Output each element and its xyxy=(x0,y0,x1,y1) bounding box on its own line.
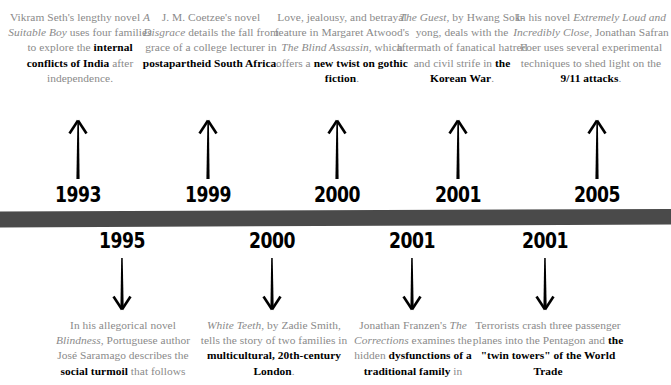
entry-text-top-2005: In his novel Extremely Loud and Incredib… xyxy=(513,10,669,86)
arrow-up-icon xyxy=(191,116,225,179)
year-label-top: 2000 xyxy=(304,183,370,207)
year-label-top: 2005 xyxy=(564,183,630,207)
entry-text-top-2000: Love, jealousy, and betrayal feature in … xyxy=(272,10,412,86)
year-label-bottom: 1995 xyxy=(89,229,155,253)
entry-text-bottom-2001-a: Jonathan Franzen's The Corrections exami… xyxy=(337,318,489,379)
entry-text-top-1999: J. M. Coetzee's novel Disgrace details t… xyxy=(140,10,282,71)
arrow-down-icon xyxy=(105,258,139,314)
year-label-bottom: 2001 xyxy=(512,229,578,253)
year-label-top: 1999 xyxy=(175,183,241,207)
arrow-down-icon xyxy=(255,258,289,314)
entry-text-top-1993: Vikram Seth's lengthy novel A Suitable B… xyxy=(6,10,154,86)
entry-text-top-2001: The Guest, by Hwang Sok-yong, deals with… xyxy=(396,10,528,86)
arrow-down-icon xyxy=(395,258,429,314)
year-label-top: 2001 xyxy=(425,183,491,207)
arrow-up-icon xyxy=(320,116,354,179)
year-label-bottom: 2000 xyxy=(239,229,305,253)
arrow-up-icon xyxy=(580,116,614,179)
timeline-canvas: Vikram Seth's lengthy novel A Suitable B… xyxy=(0,0,671,385)
entry-text-bottom-2000: White Teeth, by Zadie Smith, tells the s… xyxy=(198,318,350,379)
entry-text-bottom-1995: In his allegorical novel Blindness, Port… xyxy=(45,318,201,379)
arrow-up-icon xyxy=(441,116,475,179)
year-label-top: 1993 xyxy=(45,183,111,207)
entry-text-bottom-2001-b: Terrorists crash three passenger planes … xyxy=(472,318,624,379)
arrow-down-icon xyxy=(528,258,562,314)
year-label-bottom: 2001 xyxy=(379,229,445,253)
timeline-bar xyxy=(0,209,671,228)
arrow-up-icon xyxy=(61,116,95,179)
